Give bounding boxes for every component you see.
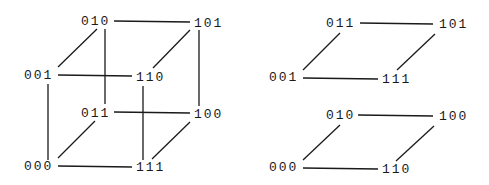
top-face-edges: [303, 23, 435, 79]
node-label-001: 001: [269, 70, 298, 85]
edge-010-100: [358, 115, 433, 116]
node-label-110: 110: [382, 162, 411, 177]
edge-011-100: [114, 112, 190, 113]
node-label-000: 000: [24, 159, 53, 174]
edge-011-000: [58, 121, 95, 158]
node-label-111: 111: [136, 160, 165, 175]
node-label-000: 000: [269, 160, 298, 175]
full-cube-nodes: 010101001110011100000111: [24, 14, 223, 175]
node-label-100: 100: [439, 109, 468, 124]
edge-011-001: [303, 33, 340, 70]
node-label-011: 011: [81, 106, 110, 121]
edge-010-001: [58, 29, 97, 67]
edge-010-000: [303, 125, 340, 160]
edge-101-110: [153, 30, 190, 68]
edge-000-110: [303, 168, 378, 169]
edge-000-111: [58, 166, 132, 167]
edge-100-111: [152, 122, 190, 159]
edge-001-110: [58, 75, 132, 76]
top-face-nodes: 011101001111: [269, 16, 468, 87]
labels-layer: 0101010011100111000001110111010011110101…: [24, 14, 468, 177]
edges-layer: [48, 21, 435, 169]
node-label-101: 101: [439, 17, 468, 32]
node-label-110: 110: [136, 70, 165, 85]
node-label-100: 100: [194, 107, 223, 122]
edge-101-111: [397, 34, 435, 70]
edge-001-111: [303, 78, 378, 79]
bottom-face-edges: [303, 115, 434, 169]
node-label-101: 101: [194, 16, 223, 31]
full-cube-edges: [48, 21, 199, 167]
node-label-010: 010: [81, 14, 110, 29]
node-label-011: 011: [326, 16, 355, 31]
bottom-face-nodes: 010100000110: [269, 108, 468, 177]
edge-011-101: [360, 23, 433, 24]
edge-100-110: [396, 126, 434, 161]
node-label-010: 010: [326, 108, 355, 123]
hypercube-diagram: 0101010011100111000001110111010011110101…: [0, 0, 489, 185]
node-label-111: 111: [382, 72, 411, 87]
edge-010-101: [114, 21, 190, 22]
node-label-001: 001: [24, 68, 53, 83]
